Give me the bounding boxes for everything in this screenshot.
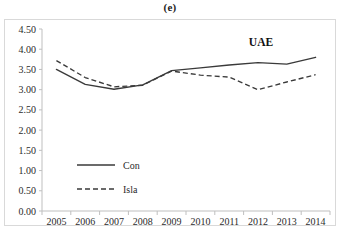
x-tick-label: 2009 bbox=[162, 216, 182, 225]
x-tick-label: 2011 bbox=[219, 216, 239, 225]
y-tick-group: 0.000.501.001.502.002.503.003.504.004.50 bbox=[19, 24, 43, 217]
series-title-label: UAE bbox=[249, 36, 274, 48]
legend-label-isla: Isla bbox=[123, 184, 138, 195]
y-tick-label: 0.50 bbox=[19, 185, 37, 196]
y-tick-label: 2.00 bbox=[19, 125, 37, 136]
legend-label-con: Con bbox=[123, 160, 140, 171]
series-line-isla bbox=[56, 61, 315, 90]
figure-panel: (e) 0.000.501.001.502.002.503.003.504.00… bbox=[0, 0, 340, 231]
x-tick-label: 2005 bbox=[46, 216, 66, 225]
chart-frame: 0.000.501.001.502.002.503.003.504.004.50… bbox=[4, 19, 336, 226]
y-tick-label: 2.50 bbox=[19, 104, 37, 115]
line-chart: 0.000.501.001.502.002.503.003.504.004.50… bbox=[5, 20, 335, 225]
x-tick-label: 2012 bbox=[248, 216, 268, 225]
x-tick-label: 2007 bbox=[104, 216, 124, 225]
y-tick-label: 0.00 bbox=[19, 206, 37, 217]
y-tick-label: 1.00 bbox=[19, 165, 37, 176]
y-tick-label: 3.00 bbox=[19, 84, 37, 95]
y-tick-label: 4.50 bbox=[19, 24, 37, 35]
y-tick-label: 4.00 bbox=[19, 44, 37, 55]
x-tick-group: 2005200620072008200920102011201220132014 bbox=[42, 211, 330, 225]
x-tick-label: 2013 bbox=[277, 216, 297, 225]
y-tick-label: 1.50 bbox=[19, 145, 37, 156]
panel-caption: (e) bbox=[0, 1, 340, 13]
x-tick-label: 2014 bbox=[306, 216, 326, 225]
x-tick-label: 2008 bbox=[133, 216, 153, 225]
x-tick-label: 2006 bbox=[75, 216, 95, 225]
chart-legend: ConIsla bbox=[77, 160, 140, 195]
x-tick-label: 2010 bbox=[190, 216, 210, 225]
y-tick-label: 3.50 bbox=[19, 64, 37, 75]
